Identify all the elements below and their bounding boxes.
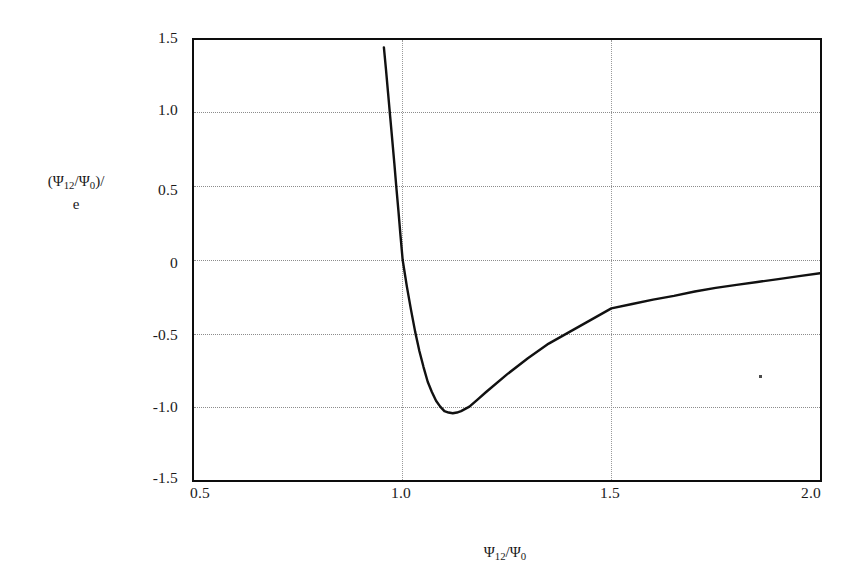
y-tick-label: 0.5 [158, 182, 178, 198]
y-axis-title-line1: (Ψ12/Ψ0)/ [18, 172, 134, 195]
plot-frame [192, 38, 822, 482]
y-tick-label: -1.0 [153, 399, 178, 415]
x-title-subscript: 12 [495, 550, 506, 562]
y-tick-label: 0 [170, 255, 178, 271]
y-title-part: )/ [95, 173, 104, 189]
figure-canvas: 1.5 1.0 0.5 0 -0.5 -1.0 -1.5 (Ψ12/Ψ0)/ e… [0, 0, 855, 588]
x-tick-label: 1.5 [580, 485, 640, 501]
x-axis-tick-labels: 0.5 1.0 1.5 2.0 [192, 485, 818, 505]
y-axis-title: (Ψ12/Ψ0)/ e [18, 172, 134, 214]
y-title-subscript: 12 [64, 179, 75, 191]
scan-artifact-dot [759, 375, 762, 378]
data-curve [194, 40, 820, 480]
y-tick-label: 1.0 [158, 102, 178, 118]
y-axis-title-line2: e [18, 195, 134, 214]
y-tick-label: -0.5 [153, 327, 178, 343]
x-title-subscript: 0 [521, 550, 526, 562]
y-title-part: (Ψ [48, 173, 64, 189]
x-title-part: /Ψ [506, 544, 521, 560]
y-title-part: /Ψ [75, 173, 90, 189]
x-title-part: Ψ [484, 544, 495, 560]
y-tick-label: 1.5 [158, 30, 178, 46]
x-tick-label: 2.0 [781, 485, 841, 501]
x-axis-title: Ψ12/Ψ0 [405, 543, 605, 565]
x-tick-label: 0.5 [170, 485, 230, 501]
x-tick-label: 1.0 [371, 485, 431, 501]
y-tick-label: -1.5 [153, 470, 178, 486]
